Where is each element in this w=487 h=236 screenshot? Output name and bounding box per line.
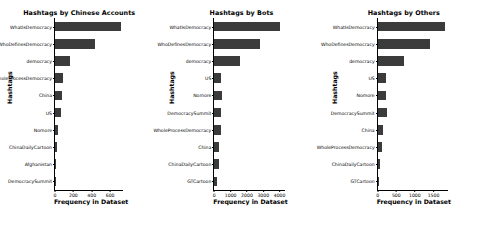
- y-tick-label: US: [46, 110, 52, 115]
- y-tick-mark: [212, 113, 214, 114]
- y-tick-mark: [376, 181, 378, 182]
- bar: [378, 56, 405, 66]
- y-tick-mark: [376, 27, 378, 28]
- y-tick-mark: [53, 113, 55, 114]
- bar: [55, 39, 95, 49]
- y-tick-label: DemocracySummit: [167, 110, 211, 115]
- x-tick-mark: [73, 190, 74, 192]
- bar: [214, 91, 222, 101]
- y-tick-mark: [53, 44, 55, 45]
- bar: [378, 39, 430, 49]
- bar: [214, 39, 260, 49]
- bar: [378, 125, 384, 135]
- y-tick-label: WhoDefinesDemocracy: [321, 41, 375, 46]
- bar-row: WhatIsDemocracy: [378, 18, 448, 35]
- y-tick-mark: [376, 113, 378, 114]
- y-tick-mark: [376, 61, 378, 62]
- y-tick-mark: [53, 78, 55, 79]
- x-tick: 400: [87, 190, 96, 198]
- y-tick-mark: [53, 95, 55, 96]
- bar: [378, 159, 380, 169]
- y-tick-label: Afghanistan: [25, 162, 52, 167]
- bar: [214, 73, 221, 83]
- y-tick-label: Nomore: [357, 93, 375, 98]
- y-tick-label: WholeProcessDemocracy: [153, 127, 211, 132]
- bar-row: GTCartoon: [214, 173, 285, 190]
- bar-row: WhatIsDemocracy: [55, 18, 123, 35]
- x-tick-mark: [377, 190, 378, 192]
- axes: WhatIsDemocracyWhoDefinesDemocracydemocr…: [54, 18, 123, 191]
- y-tick-mark: [53, 147, 55, 148]
- bar: [55, 73, 63, 83]
- bar-row: WholeProcessDemocracy: [378, 138, 448, 155]
- bar-row: US: [214, 70, 285, 87]
- bar: [378, 91, 387, 101]
- chart-panel-chinese-accounts: Hashtags by Chinese Accounts Hashtags Wh…: [0, 0, 162, 236]
- x-tick-mark: [110, 190, 111, 192]
- x-tick: 0: [376, 190, 379, 198]
- bar: [378, 142, 382, 152]
- y-tick-label: WhatIsDemocracy: [169, 24, 211, 29]
- bar: [214, 22, 280, 32]
- y-tick-label: China: [39, 93, 52, 98]
- bar-row: democracy: [378, 52, 448, 69]
- bar-row: DemocracySummit: [378, 104, 448, 121]
- y-tick-mark: [376, 95, 378, 96]
- bar: [55, 22, 121, 32]
- bar-row: democracy: [214, 52, 285, 69]
- x-tick-mark: [214, 190, 215, 192]
- plot-area: WhatIsDemocracyWhoDefinesDemocracydemocr…: [0, 18, 162, 190]
- y-tick-label: DemocracySummit: [8, 179, 52, 184]
- x-tick: 1000: [225, 190, 237, 198]
- y-tick-label: China: [198, 144, 211, 149]
- bar: [55, 142, 57, 152]
- x-axis-title: Frequency in Dataset: [213, 198, 284, 205]
- x-tick-mark: [396, 190, 397, 192]
- bar: [55, 108, 61, 118]
- y-tick-label: DemocracySummit: [331, 110, 375, 115]
- x-axis-title: Frequency in Dataset: [54, 198, 122, 205]
- y-tick-mark: [53, 61, 55, 62]
- bar: [55, 159, 56, 169]
- bar-row: China: [214, 138, 285, 155]
- x-tick: 0: [213, 190, 216, 198]
- y-tick-mark: [212, 181, 214, 182]
- bar-row: China: [378, 121, 448, 138]
- y-tick-mark: [376, 78, 378, 79]
- bar-row: WholeProcessDemocracy: [55, 70, 123, 87]
- x-axis-title: Frequency in Dataset: [377, 198, 447, 205]
- bar-row: ChinaDailyCartoon: [378, 156, 448, 173]
- bar: [55, 125, 58, 135]
- x-tick-mark: [415, 190, 416, 192]
- bar: [55, 56, 70, 66]
- bar-row: US: [378, 70, 448, 87]
- bar: [378, 108, 387, 118]
- y-tick-label: democracy: [349, 58, 375, 63]
- bar: [214, 125, 221, 135]
- chart-title: Hashtags by Others: [325, 9, 483, 17]
- y-tick-label: democracy: [26, 58, 52, 63]
- y-tick-label: WholeProcessDemocracy: [317, 144, 375, 149]
- y-tick-label: Nomore: [34, 127, 52, 132]
- x-tick-mark: [279, 190, 280, 192]
- y-tick-mark: [53, 27, 55, 28]
- bar: [378, 73, 386, 83]
- y-tick-mark: [212, 164, 214, 165]
- bar: [378, 22, 445, 32]
- bar-row: Nomore: [214, 87, 285, 104]
- x-tick: 1000: [409, 190, 421, 198]
- y-tick-mark: [212, 130, 214, 131]
- axes: WhatIsDemocracyWhoDefinesDemocracydemocr…: [213, 18, 285, 191]
- y-tick-label: ChinaDailyCartoon: [9, 144, 52, 149]
- axes: WhatIsDemocracyWhoDefinesDemocracydemocr…: [377, 18, 448, 191]
- figure-three-bar-charts: Hashtags by Chinese Accounts Hashtags Wh…: [0, 0, 487, 236]
- y-tick-label: WhatIsDemocracy: [333, 24, 375, 29]
- y-tick-mark: [212, 44, 214, 45]
- y-tick-mark: [212, 61, 214, 62]
- chart-panel-bots: Hashtags by Bots Hashtags WhatIsDemocrac…: [162, 0, 324, 236]
- bar: [214, 56, 239, 66]
- y-tick-mark: [212, 78, 214, 79]
- y-tick-label: US: [368, 76, 374, 81]
- plot-area: WhatIsDemocracyWhoDefinesDemocracydemocr…: [162, 18, 324, 190]
- bar: [55, 177, 56, 187]
